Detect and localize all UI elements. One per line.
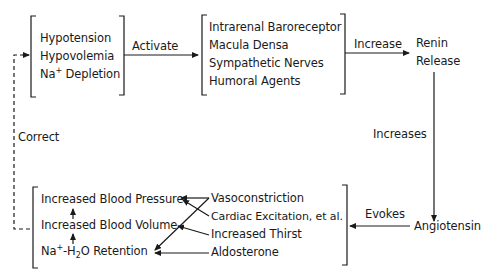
- receptor-macula-densa: Macula Densa: [209, 39, 289, 52]
- effect-vasoconstriction: Vasoconstriction: [211, 192, 304, 205]
- outcomes-bracket-right: [342, 185, 347, 265]
- edge-label-activate: Activate: [132, 40, 178, 53]
- outcome-na-h2o-retention: Na+-H2O Retention: [41, 245, 148, 258]
- renin-label-line1: Renin: [416, 37, 448, 50]
- conditions-bracket-right: [119, 16, 124, 95]
- edge-label-increases: Increases: [373, 128, 427, 141]
- receptor-humoral-agents: Humoral Agents: [209, 75, 300, 88]
- effect-increased-thirst: Increased Thirst: [211, 228, 302, 241]
- condition-hypotension: Hypotension: [40, 32, 111, 45]
- condition-na-depletion: Na+ Depletion: [40, 68, 120, 81]
- edge-label-correct: Correct: [18, 131, 59, 144]
- conditions-bracket-left: [31, 16, 36, 97]
- effect-aldosterone: Aldosterone: [211, 246, 279, 259]
- angiotensin-label: Angiotensin: [414, 220, 481, 233]
- outcomes-bracket-left: [33, 187, 38, 268]
- edge-label-evokes: Evokes: [365, 208, 405, 221]
- outcome-increased-blood-pressure: Increased Blood Pressure: [41, 193, 183, 206]
- receptor-intrarenal-baroreceptor: Intrarenal Baroreceptor: [209, 21, 341, 34]
- receptor-sympathetic-nerves: Sympathetic Nerves: [209, 57, 324, 70]
- condition-hypovolemia: Hypovolemia: [40, 50, 114, 63]
- effect-cardiac-excitation: Cardiac Excitation, et al.: [211, 210, 343, 223]
- outcome-increased-blood-volume: Increased Blood Volume: [41, 219, 177, 232]
- edge-label-increase: Increase: [354, 38, 402, 51]
- receptors-bracket-left: [202, 15, 207, 95]
- thirst-to-volume: [178, 226, 209, 235]
- renin-label-line2: Release: [416, 55, 460, 68]
